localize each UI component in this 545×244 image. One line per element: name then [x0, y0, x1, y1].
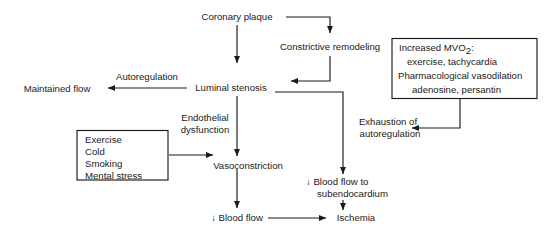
triggers-item-2: Smoking: [85, 158, 122, 169]
mvo2-line2: exercise, tachycardia: [407, 56, 498, 67]
flowchart-canvas: Coronary plaque Constrictive remodeling …: [0, 0, 545, 244]
node-subendocardial-flow-line1: ↓ Blood flow to: [306, 176, 368, 187]
mvo2-line4: adenosine, persantin: [412, 84, 501, 95]
node-luminal-stenosis: Luminal stenosis: [195, 82, 267, 93]
node-maintained-flow: Maintained flow: [24, 83, 91, 94]
node-blood-flow: ↓ Blood flow: [211, 212, 263, 223]
edge-label-autoregulation: Autoregulation: [116, 71, 178, 82]
triggers-item-3: Mental stress: [85, 170, 142, 181]
node-constrictive-remodeling: Constrictive remodeling: [280, 41, 380, 52]
edge-mvo2-to-exhaustion-of-autoregulation: [412, 99, 460, 128]
node-ischemia: Ischemia: [337, 212, 376, 223]
edge-luminal-stenosis-to-subendocardium: [275, 92, 343, 174]
mvo2-line1: Increased MVO2:: [399, 42, 474, 56]
node-vasoconstriction: Vasoconstriction: [213, 160, 283, 171]
edge-label-endothelial-dysfunction-line2: dysfunction: [181, 124, 230, 135]
mvo2-line3: Pharmacological vasodilation: [398, 70, 522, 81]
node-coronary-plaque: Coronary plaque: [202, 11, 273, 22]
flowchart-diagram: Coronary plaque Constrictive remodeling …: [0, 0, 545, 244]
edge-label-endothelial-dysfunction-line1: Endothelial: [181, 112, 228, 123]
edge-constrictive-remodeling-to-luminal-stenosis: [291, 56, 330, 81]
mvo2-line1-prefix: Increased MVO: [399, 42, 466, 53]
node-exhaustion-of-autoregulation-line1: Exhaustion of: [359, 116, 417, 127]
triggers-item-1: Cold: [85, 146, 105, 157]
node-subendocardial-flow-line2: subendocardium: [317, 188, 388, 199]
triggers-item-0: Exercise: [85, 134, 122, 145]
mvo2-line1-suffix: :: [471, 42, 474, 53]
node-exhaustion-of-autoregulation-line2: autoregulation: [360, 128, 421, 139]
edge-plaque-to-constrictive-remodeling: [286, 17, 330, 33]
